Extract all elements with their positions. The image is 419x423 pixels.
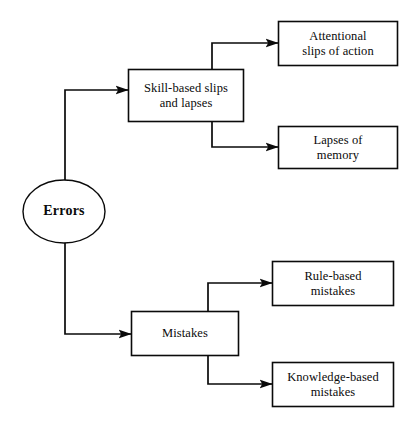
node-shape-attentional-slips-of-action [279,22,398,66]
connector-skill-based-to-attentional [212,43,278,70]
errors-taxonomy-diagram: Errors Skill-based slips and lapses Atte… [0,0,419,423]
connector-errors-to-skill-based [65,90,128,180]
node-shape-lapses-of-memory [279,127,398,169]
node-shape-skill-based-slips-and-lapses [129,70,244,122]
node-shape-mistakes [132,312,239,356]
connector-errors-to-mistakes [65,243,131,334]
connector-skill-based-to-lapses [212,122,278,148]
diagram-canvas [0,0,419,423]
connector-mistakes-to-rule-based [208,283,272,312]
node-shape-knowledge-based-mistakes [273,363,394,407]
connector-mistakes-to-knowledge-based [208,356,272,385]
node-shape-errors [23,180,105,243]
node-shape-rule-based-mistakes [273,262,394,306]
